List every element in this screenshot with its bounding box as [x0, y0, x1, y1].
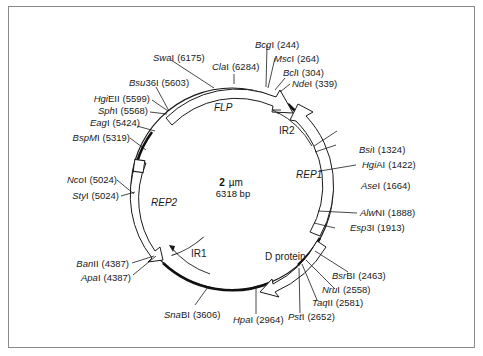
site-label-sphi: SphI(5568) [98, 105, 148, 116]
label-flp: FLP [214, 102, 233, 113]
label-ir1: IR1 [191, 248, 207, 259]
site-label-bsrbi: BsrBI(2463) [332, 270, 386, 281]
rep2-box-end [133, 159, 145, 172]
site-label-hgiai: HgiAI(1422) [362, 159, 416, 170]
plasmid-size: 6318 bp [216, 188, 250, 199]
site-label-ndei: NdeI(339) [292, 78, 337, 89]
site-label-nrui: NruI(2558) [322, 284, 370, 295]
site-label-hgieii: HgiEII(5599) [94, 93, 150, 104]
site-label-bsii: BsiI(1324) [359, 144, 405, 155]
feature-rep2-arrow [130, 162, 163, 262]
site-label-bcgi: BcgI(244) [255, 39, 299, 50]
site-label-apai: ApaI(4387) [80, 272, 131, 283]
site-label-clai: ClaI(6284) [212, 61, 259, 72]
site-label-ncoi: NcoI(5024) [67, 174, 117, 185]
site-label-swai: SwaI(6175) [153, 52, 205, 63]
site-label-banii: BanII(4387) [76, 258, 129, 269]
site-label-taqii: TaqII(2581) [312, 297, 363, 308]
backbone-bold-bottom [163, 263, 272, 290]
label-rep1: REP1 [296, 169, 322, 180]
site-label-alwni: AlwNI(1888) [359, 207, 415, 218]
site-label-bcli: BclI(304) [283, 67, 324, 78]
label-ir2: IR2 [279, 125, 295, 136]
label-rep2: REP2 [151, 197, 178, 208]
backbone-bold-left [137, 132, 152, 162]
site-label-asei: AseI(1664) [360, 180, 410, 191]
site-label-bspmi: BspMI(5319) [73, 132, 130, 143]
site-label-bsu36i: Bsu36I(5603) [129, 77, 189, 88]
site-label-hpai: HpaI(2964) [233, 314, 284, 325]
site-label-msci: MscI(264) [274, 53, 319, 64]
plasmid-map: FLP REP1 REP2 IR1 IR2 D protein 2µm 6318… [0, 0, 483, 356]
site-label-psti: PstI(2652) [288, 311, 335, 322]
site-label-snabi: SnaBI(3606) [164, 309, 220, 320]
site-label-esp3i: Esp3I(1913) [350, 222, 405, 233]
site-label-styi: StyI(5024) [72, 190, 119, 201]
site-label-eagi: EagI(5424) [90, 117, 140, 128]
label-dprotein: D protein [265, 251, 306, 262]
plasmid-name: 2µm [219, 177, 243, 188]
